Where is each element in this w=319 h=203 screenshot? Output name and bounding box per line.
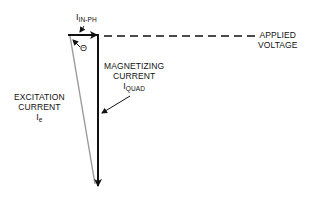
in-phase-leader — [80, 26, 84, 32]
theta-label: Θ — [80, 43, 87, 53]
excitation-current-label: EXCITATION CURRENT Ie — [14, 92, 65, 125]
applied-voltage-line1: APPLIED — [258, 30, 298, 40]
magnetizing-subscript: QUAD — [126, 85, 145, 92]
theta-angle-arrow — [73, 40, 80, 47]
excitation-current-vector — [70, 36, 95, 184]
in-phase-current-label: IIN-PH — [76, 12, 97, 25]
magnetizing-line2: CURRENT — [104, 71, 164, 81]
in-phase-subscript: IN-PH — [79, 16, 97, 23]
excitation-subscript: e — [39, 116, 43, 123]
excitation-line1: EXCITATION — [14, 92, 65, 102]
magnetizing-line1: MAGNETIZING — [104, 61, 164, 71]
applied-voltage-line2: VOLTAGE — [258, 40, 298, 50]
excitation-line2: CURRENT — [14, 102, 65, 112]
magnetizing-current-label: MAGNETIZING CURRENT IQUAD — [104, 61, 164, 94]
applied-voltage-label: APPLIED VOLTAGE — [258, 30, 298, 50]
magnetizing-leader — [102, 96, 130, 113]
